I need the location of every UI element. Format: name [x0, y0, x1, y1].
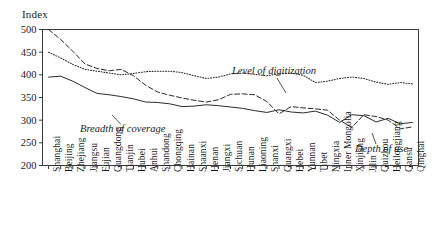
data-series-level-of-digitization: [49, 52, 413, 84]
annotation-level-of-digitization: Level of digitization: [231, 65, 316, 76]
chart-plot-area: 200250300350400450500 Level of digitizat…: [0, 0, 442, 245]
y-axis-tick-label: 200: [21, 160, 37, 171]
y-axis-tick-label: 300: [21, 115, 37, 126]
data-series-depth-of-use: [49, 30, 413, 129]
annotation-level-of-digitization-leader-line: [277, 78, 286, 93]
chart-figure: Index 200250300350400450500 Level of dig…: [0, 0, 442, 245]
y-axis-tick-label: 400: [21, 69, 37, 80]
y-axis-tick-label: 500: [21, 24, 37, 35]
y-axis-tick-label: 450: [21, 47, 37, 58]
annotation-depth-of-use: Depth of use: [354, 143, 408, 154]
data-series-breadth-of-coverage: [49, 76, 413, 124]
y-axis: 200250300350400450500: [21, 24, 43, 171]
annotation-breadth-of-coverage: Breadth of coverage: [80, 123, 166, 134]
y-axis-tick-label: 350: [21, 92, 37, 103]
data-series-group: [49, 30, 413, 129]
x-axis-ticks: [49, 166, 413, 170]
y-axis-tick-label: 250: [21, 137, 37, 148]
